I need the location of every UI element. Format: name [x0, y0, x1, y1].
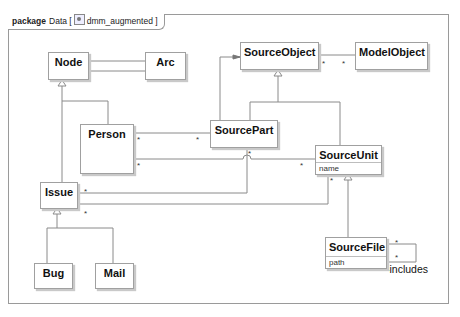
class-modelobject[interactable]: ModelObject	[355, 42, 428, 70]
class-attribute-name: name	[316, 162, 381, 174]
class-name: Mail	[96, 264, 133, 279]
association-person-sourceunit[interactable]	[134, 155, 315, 159]
class-sourcefile[interactable]: SourceFile path	[325, 237, 387, 269]
mult-issue-sourcepart-part: *	[248, 149, 251, 158]
class-sourceunit[interactable]: SourceUnit name	[315, 145, 382, 175]
association-sourcefile-includes[interactable]	[386, 244, 416, 262]
association-sourcepart-sourceobject[interactable]	[220, 57, 240, 120]
class-name: Bug	[35, 264, 72, 279]
mult-modelobject-sourceobject: *	[342, 59, 345, 68]
mult-issue-sourceunit-issue: *	[84, 209, 87, 218]
class-sourceobject[interactable]: SourceObject	[240, 42, 319, 70]
class-bug[interactable]: Bug	[34, 263, 73, 289]
generalization-person-node[interactable]	[62, 101, 108, 124]
diagram-canvas: packageData [dmm_augmented ]	[0, 0, 460, 317]
mult-person-sourcepart-part: *	[196, 135, 199, 144]
class-name: SourceUnit	[316, 146, 381, 161]
generalization-arrow-sourceobject	[274, 70, 282, 76]
class-node[interactable]: Node	[48, 52, 89, 80]
class-name: Node	[49, 53, 88, 68]
class-person[interactable]: Person	[80, 124, 134, 174]
class-name: Person	[81, 125, 133, 140]
class-sourcepart[interactable]: SourcePart	[210, 120, 278, 148]
mult-sourcefile-includes-source: *	[395, 238, 398, 247]
class-arc[interactable]: Arc	[145, 52, 186, 80]
mult-issue-sourcepart-issue: *	[84, 187, 87, 196]
role-includes: -includes	[386, 263, 428, 275]
class-name: ModelObject	[356, 43, 427, 58]
class-attribute-path: path	[326, 256, 386, 268]
mult-sourcefile-includes-target: *	[395, 253, 398, 262]
class-issue[interactable]: Issue	[40, 182, 78, 209]
class-name: SourceObject	[241, 43, 318, 58]
generalization-bug-mail-issue[interactable]	[47, 228, 113, 263]
class-name: SourceFile	[326, 238, 386, 253]
class-name: Issue	[41, 183, 77, 198]
mult-sourceobject-modelobject: *	[322, 59, 325, 68]
association-issue-sourceunit[interactable]	[78, 174, 328, 204]
class-name: SourcePart	[211, 121, 277, 136]
mult-issue-sourceunit-unit: *	[330, 176, 333, 185]
association-arrow-sourceobject	[233, 55, 240, 59]
mult-person-sourcepart-person: *	[137, 135, 140, 144]
class-mail[interactable]: Mail	[95, 263, 134, 289]
mult-person-sourceunit-unit: *	[300, 161, 303, 170]
mult-person-sourceunit-person: *	[137, 161, 140, 170]
generalization-arrow-node	[58, 80, 66, 86]
class-name: Arc	[146, 53, 185, 68]
